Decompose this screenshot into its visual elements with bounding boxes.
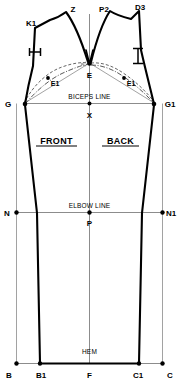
dot-X — [88, 102, 92, 106]
label-E: E — [87, 71, 93, 80]
label-N1: N1 — [166, 209, 177, 218]
label-E1-right: E1 — [127, 80, 136, 87]
dot-N — [14, 210, 18, 214]
dot-P — [87, 210, 91, 214]
back-shoulder-outline — [91, 11, 154, 104]
dot-E1-right — [122, 76, 126, 80]
label-P: P — [87, 219, 93, 228]
label-N: N — [4, 209, 10, 218]
right-side-seam — [139, 105, 154, 363]
label-K1: K1 — [26, 19, 37, 28]
dot-B — [14, 361, 18, 365]
label-back-section: BACK — [107, 136, 134, 146]
label-F: F — [87, 371, 92, 380]
label-hem-line: HEM — [82, 348, 97, 355]
label-G1: G1 — [165, 100, 176, 109]
label-X: X — [87, 111, 93, 120]
label-biceps-line: BICEPS LINE — [68, 93, 111, 100]
label-C: C — [167, 371, 173, 380]
label-front-section: FRONT — [40, 136, 73, 146]
label-elbow-line: ELBOW LINE — [69, 202, 111, 209]
label-B: B — [6, 371, 12, 380]
dot-N1 — [160, 210, 164, 214]
label-G: G — [5, 100, 11, 109]
dot-B1 — [38, 361, 42, 365]
label-C1: C1 — [133, 371, 144, 380]
dot-G — [23, 102, 28, 107]
sleeve-pattern-diagram: K1 Z P2 D3 E E1 E1 G G1 X BICEPS LINE EL… — [0, 0, 179, 387]
dot-E — [87, 61, 92, 66]
pattern-drawing-canvas: K1 Z P2 D3 E E1 E1 G G1 X BICEPS LINE EL… — [0, 0, 179, 387]
dot-E1-left — [46, 76, 50, 80]
left-side-seam — [25, 105, 40, 363]
dot-G1 — [152, 102, 157, 107]
label-Z: Z — [71, 5, 76, 14]
label-P2: P2 — [99, 5, 109, 14]
dot-C1 — [137, 361, 141, 365]
label-D3: D3 — [135, 3, 146, 12]
label-B1: B1 — [36, 371, 47, 380]
construction-lines — [15, 14, 164, 364]
label-E1-left: E1 — [51, 80, 60, 87]
dot-C — [160, 361, 164, 365]
